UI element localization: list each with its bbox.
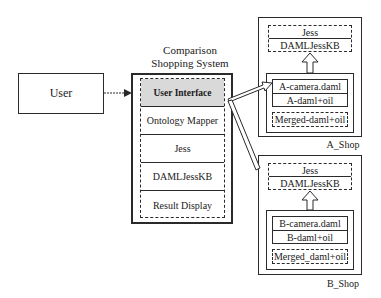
b-shop-up-arrow — [302, 191, 318, 210]
user-to-system-arrow — [104, 89, 132, 97]
ui-to-a-shop-arrow — [228, 82, 272, 102]
ui-to-b-shop-arrow — [228, 100, 260, 170]
a-shop-up-arrow — [302, 53, 318, 73]
connector-arrows — [0, 0, 381, 298]
